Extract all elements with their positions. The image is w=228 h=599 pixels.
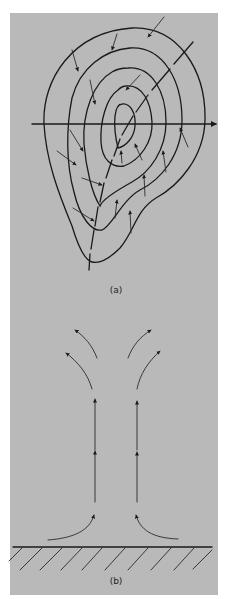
panel-a-label: (a) (96, 285, 136, 295)
panel-b-label: (b) (96, 576, 136, 586)
diagram-canvas (0, 0, 228, 599)
panel-a-contours (44, 28, 205, 262)
ground-surface (9, 547, 212, 570)
panel-b-flow (48, 330, 178, 540)
